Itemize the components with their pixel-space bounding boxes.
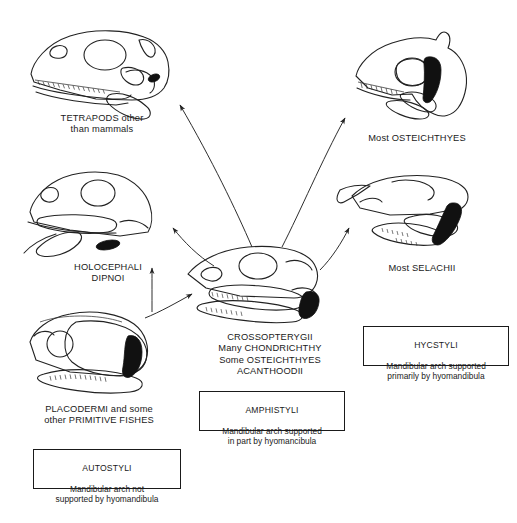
box-hycstyli-title: HYCSTYLI [369, 340, 503, 350]
box-amphistyli-body: Mandibular arch supported in part by hyo… [205, 426, 339, 447]
box-autostyli-body: Mandibular arch not supported by hyomand… [39, 484, 175, 505]
arrow-center-to-osteichthyes [282, 118, 345, 247]
arrow-center-to-selachii [320, 228, 349, 270]
arrow-center-to-holocephali [173, 228, 214, 266]
diagram-canvas: TETRAPODS other than mammals Most OSTEIC… [0, 0, 517, 523]
box-amphistyli-title: AMPHISTYLI [205, 405, 339, 415]
label-placodermi: PLACODERMI and some other PRIMITIVE FISH… [14, 404, 184, 427]
box-hycstyli-body: Mandibular arch supported primarily by h… [369, 361, 503, 382]
skull-tetrapod [31, 31, 169, 119]
box-hycstyli: HYCSTYLI Mandibular arch supported prima… [363, 326, 509, 366]
label-osteichthyes: Most OSTEICHTHYES [342, 133, 492, 144]
label-selachii: Most SELACHII [352, 263, 492, 274]
box-amphistyli: AMPHISTYLI Mandibular arch supported in … [199, 391, 345, 431]
skull-crossopterygii [188, 246, 319, 322]
skull-osteichthyes [356, 32, 467, 119]
skull-placodermi [30, 312, 148, 393]
skull-selachii [337, 175, 468, 246]
skull-holocephali [24, 172, 152, 256]
label-crossopterygii-group: CROSSOPTERYGII Many CHONDRICHTHY Some OS… [194, 332, 346, 378]
arrow-center-to-tetrapods [180, 105, 252, 247]
box-autostyli-title: AUTOSTYLI [39, 463, 175, 473]
box-autostyli: AUTOSTYLI Mandibular arch not supported … [33, 449, 181, 489]
label-tetrapods: TETRAPODS other than mammals [32, 113, 172, 136]
label-holocephali-dipnoi: HOLOCEPHALI DIPNOI [38, 262, 178, 285]
